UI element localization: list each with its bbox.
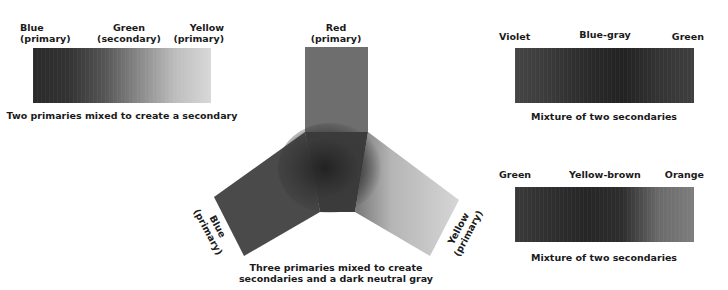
swatch3-label-yellow-brown: Yellow-brown (565, 169, 645, 180)
swatch3-caption: Mixture of two secondaries (504, 252, 704, 263)
wheel-label-red: Red (primary) (306, 22, 366, 44)
swatch3-label-green: Green (499, 169, 531, 180)
swatch2-label-green: Green (660, 31, 704, 42)
wheel-caption: Three primaries mixed to create secondar… (236, 262, 436, 284)
red-arm (305, 47, 368, 132)
swatch-violet-to-green (515, 48, 694, 103)
swatch2-label-blue-gray: Blue-gray (570, 29, 640, 40)
swatch2-label-violet: Violet (499, 31, 530, 42)
swatch-green-to-orange (515, 187, 694, 242)
swatch2-caption: Mixture of two secondaries (504, 111, 704, 122)
swatch3-label-orange: Orange (654, 169, 704, 180)
